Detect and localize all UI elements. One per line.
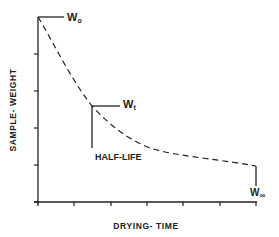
drying-curve-chart: Wo Wt HALF-LIFE W∞ DRYING- TIME SAMPLE- … bbox=[0, 0, 279, 237]
winf-label: W∞ bbox=[250, 187, 265, 200]
half-life-label: HALF-LIFE bbox=[95, 152, 142, 162]
wt-label: Wt bbox=[123, 98, 136, 111]
w0-label: Wo bbox=[67, 11, 82, 24]
drying-curve bbox=[38, 17, 256, 166]
x-axis-label: DRYING- TIME bbox=[113, 221, 178, 231]
y-axis-label: SAMPLE- WEIGHT bbox=[8, 68, 18, 151]
